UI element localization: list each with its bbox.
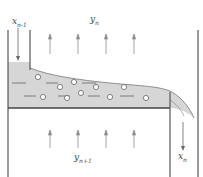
liquid-out-arrow-icon: [181, 122, 185, 151]
liquid-in-arrow-icon: [16, 28, 20, 61]
label-vapor-in: yn+1: [74, 153, 92, 164]
tray-diagram: [0, 0, 203, 177]
label-vapor-out: yn: [90, 15, 99, 26]
label-liquid-in: xn-1: [12, 17, 27, 28]
vapor-in-arrows: [49, 130, 136, 148]
label-liquid-out: xn: [178, 152, 187, 163]
vapor-out-arrows: [49, 34, 136, 54]
